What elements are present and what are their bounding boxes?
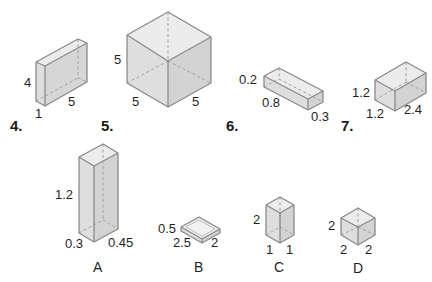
option-c-left-label: 1: [266, 243, 273, 256]
prism-worksheet: 4 1 5 4. 5 5 5 5. 0.2 0.8 0.3 6. 1.2 1.2…: [0, 0, 432, 282]
problem-number-7: 7.: [341, 118, 354, 133]
option-b-height-label: 0.5: [158, 222, 176, 235]
prism-6-length-label: 0.8: [262, 96, 280, 109]
problem-number-5: 5.: [101, 118, 114, 133]
option-a-letter: A: [93, 260, 102, 274]
prism-7-height-label: 1.2: [352, 86, 370, 99]
prism-7-right-label: 2.4: [404, 103, 422, 116]
option-b-letter: B: [194, 260, 203, 274]
option-b-right-label: 2: [211, 236, 218, 249]
prism-7-left-label: 1.2: [366, 107, 384, 120]
prism-option-c: [266, 197, 294, 243]
option-b-left-label: 2.5: [173, 236, 191, 249]
option-a-right-label: 0.45: [108, 236, 133, 249]
option-d-height-label: 2: [328, 219, 335, 232]
option-d-right-label: 2: [365, 243, 372, 256]
problem-number-6: 6.: [226, 118, 239, 133]
option-d-left-label: 2: [340, 243, 347, 256]
option-a-left-label: 0.3: [65, 237, 83, 250]
option-c-letter: C: [274, 260, 284, 274]
prism-4-width-label: 5: [68, 95, 75, 108]
prism-4-height-label: 4: [24, 76, 31, 89]
prism-option-a: [79, 144, 118, 242]
option-c-right-label: 1: [286, 243, 293, 256]
prism-4: [36, 39, 87, 106]
prism-5-height-label: 5: [114, 53, 121, 66]
option-c-height-label: 2: [253, 213, 260, 226]
option-d-letter: D: [353, 261, 363, 275]
prism-option-d: [341, 208, 375, 245]
problem-number-4: 4.: [10, 118, 23, 133]
option-a-height-label: 1.2: [55, 188, 73, 201]
prism-5-right-label: 5: [192, 95, 199, 108]
prism-5: [127, 12, 211, 107]
prism-6-height-label: 0.2: [239, 73, 257, 86]
prism-6-width-label: 0.3: [311, 110, 329, 123]
prism-5-left-label: 5: [132, 95, 139, 108]
prism-4-depth-label: 1: [35, 107, 42, 120]
